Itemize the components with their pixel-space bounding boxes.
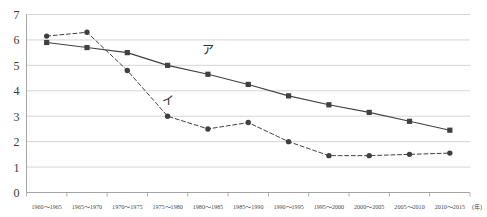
gridlines-group — [27, 15, 471, 193]
series-lines-group — [47, 32, 450, 155]
x-axis-tick-label: 1965～1970 — [72, 204, 102, 210]
data-point-marker — [165, 114, 170, 119]
x-axis-tick-marks — [27, 193, 471, 197]
y-axis-tick-label: 4 — [14, 84, 20, 98]
y-axis-tick-label: 1 — [14, 161, 20, 175]
x-axis-tick-label: 1990～1995 — [273, 204, 303, 210]
line-chart: 01234567 1960～19651965～19701970～19751975… — [0, 0, 487, 217]
series-annotation-ア: ア — [202, 43, 214, 57]
data-point-marker — [407, 152, 412, 157]
y-axis-tick-label: 3 — [14, 110, 20, 124]
x-axis-tick-label: 2005～2010 — [394, 204, 424, 210]
x-axis-tick-label: 1975～1980 — [152, 204, 182, 210]
data-point-marker — [326, 102, 331, 107]
data-point-marker — [44, 33, 49, 38]
y-axis-tick-labels: 01234567 — [14, 8, 20, 200]
x-axis-tick-label: 1985～1990 — [233, 204, 263, 210]
data-point-marker — [246, 120, 251, 125]
series-markers-group — [44, 30, 453, 159]
series-line-2 — [47, 32, 450, 155]
y-axis-tick-label: 6 — [14, 33, 20, 47]
data-point-marker — [447, 150, 452, 155]
x-axis-tick-label: 1960～1965 — [31, 204, 61, 210]
y-axis-tick-label: 7 — [14, 8, 20, 22]
series-annotation-イ: イ — [162, 94, 174, 108]
data-point-marker — [326, 153, 331, 158]
data-point-marker — [286, 93, 291, 98]
x-axis-tick-label: 1980～1985 — [193, 204, 223, 210]
data-point-marker — [286, 139, 291, 144]
data-point-marker — [165, 63, 170, 68]
y-axis-tick-label: 2 — [14, 135, 20, 149]
chart-canvas: 01234567 1960～19651965～19701970～19751975… — [0, 0, 487, 217]
data-point-marker — [407, 119, 412, 124]
data-point-marker — [84, 45, 89, 50]
data-point-marker — [367, 153, 372, 158]
x-axis-unit-label: (年) — [472, 203, 482, 211]
x-axis-tick-label: 2010～2015 — [435, 204, 465, 210]
data-point-marker — [367, 110, 372, 115]
data-point-marker — [205, 72, 210, 77]
x-axis-tick-label: 2000～2005 — [354, 204, 384, 210]
y-axis-tick-label: 0 — [14, 186, 20, 200]
data-point-marker — [246, 82, 251, 87]
data-point-marker — [125, 50, 130, 55]
y-axis-tick-label: 5 — [14, 59, 20, 73]
data-point-marker — [44, 40, 49, 45]
data-point-marker — [447, 128, 452, 133]
data-point-marker — [125, 68, 130, 73]
x-axis-tick-labels: 1960～19651965～19701970～19751975～19801980… — [31, 203, 482, 211]
data-point-marker — [84, 30, 89, 35]
data-point-marker — [205, 126, 210, 131]
x-axis-tick-label: 1970～1975 — [112, 204, 142, 210]
x-axis-tick-label: 1995～2000 — [314, 204, 344, 210]
